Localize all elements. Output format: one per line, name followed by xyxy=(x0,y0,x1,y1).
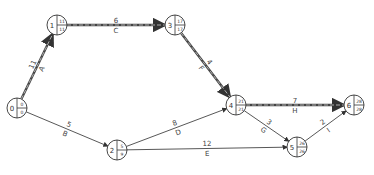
event-node-4: 42121 xyxy=(226,95,246,115)
node-latest: 17 xyxy=(177,27,183,32)
activity-name: D xyxy=(175,128,183,137)
activity-D: D8 xyxy=(126,109,226,147)
activity-name: C xyxy=(114,27,119,35)
activity-duration: 5 xyxy=(65,120,72,129)
node-latest: 9 xyxy=(121,152,124,157)
activity-name: G xyxy=(259,126,268,136)
node-earliest: 21 xyxy=(238,99,244,104)
activity-I: I2 xyxy=(305,111,346,141)
activity-G: G3 xyxy=(244,111,289,142)
node-id: 1 xyxy=(50,22,54,30)
node-latest: 21 xyxy=(238,107,244,112)
activity-F: F4 xyxy=(181,33,230,97)
event-node-3: 31717 xyxy=(165,15,185,35)
node-earliest: 28 xyxy=(356,99,362,104)
activity-B: B5 xyxy=(26,112,108,146)
activity-C: C6 xyxy=(67,17,165,35)
diagram-canvas: A11B5C6D8E12F4G3H7I2 0001111125931717421… xyxy=(0,0,374,175)
node-earliest: 5 xyxy=(121,144,124,149)
event-node-6: 62828 xyxy=(344,95,364,115)
activity-name: F xyxy=(197,64,206,72)
node-id: 0 xyxy=(10,105,14,113)
node-earliest: 26 xyxy=(299,141,305,146)
arrow xyxy=(244,111,289,142)
activity-name: A xyxy=(37,65,46,73)
node-earliest: 17 xyxy=(177,19,183,24)
activity-name: H xyxy=(292,107,297,115)
node-id: 3 xyxy=(168,22,172,30)
event-node-0: 000 xyxy=(7,98,27,118)
node-id: 5 xyxy=(290,144,294,152)
activity-A: A11 xyxy=(21,34,52,99)
event-node-1: 11111 xyxy=(47,15,67,35)
node-id: 4 xyxy=(229,102,234,110)
activity-name: E xyxy=(205,150,210,158)
event-node-2: 259 xyxy=(107,140,127,160)
arrow xyxy=(126,109,226,147)
node-id: 6 xyxy=(347,102,352,110)
node-latest: 0 xyxy=(21,110,24,115)
activity-duration: 12 xyxy=(202,140,211,148)
arrow xyxy=(26,112,108,146)
activity-duration: 8 xyxy=(171,119,178,128)
network-diagram: A11B5C6D8E12F4G3H7I2 0001111125931717421… xyxy=(0,0,374,175)
activity-duration: 6 xyxy=(114,17,119,25)
node-latest: 28 xyxy=(356,107,362,112)
event-node-5: 52626 xyxy=(287,137,307,157)
activity-E: E12 xyxy=(127,140,287,158)
activity-name: B xyxy=(61,129,69,138)
node-earliest: 11 xyxy=(59,19,65,24)
activity-duration: 7 xyxy=(293,97,297,105)
node-latest: 26 xyxy=(299,149,305,154)
node-earliest: 0 xyxy=(21,102,24,107)
node-latest: 11 xyxy=(59,27,65,32)
node-id: 2 xyxy=(110,147,114,155)
arrow xyxy=(305,111,346,141)
activity-name: I xyxy=(326,127,332,135)
activity-H: H7 xyxy=(246,97,344,115)
